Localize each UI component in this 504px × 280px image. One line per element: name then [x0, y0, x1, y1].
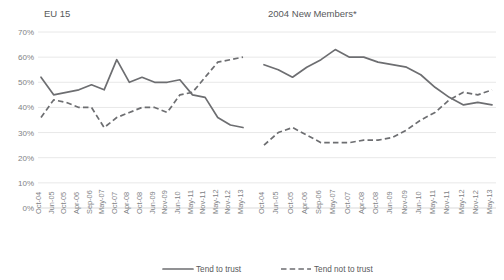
- legend-label: Tend not to trust: [314, 265, 373, 274]
- x-axis-tick-label: May-07: [328, 189, 337, 214]
- x-axis-tick-labels: Oct-04Jun-05Oct-05Apr-06Sep-06May-07Oct-…: [34, 189, 494, 214]
- y-axis-tick-label: 60%: [18, 53, 34, 62]
- x-axis-tick-label: Jun-10: [173, 191, 182, 214]
- chart-legend: Tend to trustTend not to trust: [163, 265, 373, 274]
- y-axis-tick-label: 20%: [18, 154, 34, 163]
- series-line: [264, 90, 492, 145]
- x-axis-tick-label: Nov-09: [160, 190, 169, 214]
- x-axis-tick-label: Oct-07: [343, 192, 352, 214]
- x-axis-tick-label: Jun-10: [414, 191, 423, 214]
- x-axis-tick-label: May-07: [97, 189, 106, 214]
- series-lines: [41, 50, 492, 146]
- trust-line-chart: 0%10%20%30%40%50%60%70% EU 152004 New Me…: [0, 0, 504, 280]
- x-axis-tick-label: Oct-05: [286, 192, 295, 214]
- x-axis-tick-label: Oct-04: [34, 192, 43, 214]
- x-axis-tick-label: Oct-04: [257, 192, 266, 214]
- x-axis-tick-label: Apr-06: [300, 192, 309, 214]
- x-axis-tick-label: May-11: [186, 190, 195, 214]
- x-axis-tick-label: Jun-09: [148, 191, 157, 214]
- x-axis-tick-label: Nov-11: [198, 191, 207, 214]
- series-line: [264, 50, 492, 105]
- y-axis-tick-label: 30%: [18, 129, 34, 138]
- x-axis-tick-label: Nov-12: [223, 190, 232, 214]
- gridlines: [38, 32, 496, 208]
- x-axis-tick-label: Nov-12: [471, 190, 480, 214]
- series-line: [41, 60, 243, 128]
- x-axis-tick-label: Apr-08: [122, 192, 131, 214]
- series-line: [41, 57, 243, 127]
- panel-titles: EU 152004 New Members*: [44, 8, 357, 19]
- x-axis-tick-label: Apr-08: [357, 192, 366, 214]
- x-axis-tick-label: Jun-09: [385, 191, 394, 214]
- x-axis-tick-label: May-12: [457, 189, 466, 214]
- x-axis-tick-label: May-13: [485, 189, 494, 214]
- y-axis-tick-label: 0%: [22, 204, 34, 213]
- x-axis-tick-label: Sep-06: [314, 190, 323, 214]
- x-axis-tick-label: Oct-07: [110, 192, 119, 214]
- x-axis-tick-label: Sep-06: [85, 190, 94, 214]
- x-axis-tick-label: Jun-05: [47, 191, 56, 214]
- x-axis-tick-label: Apr-06: [72, 192, 81, 214]
- legend-label: Tend to trust: [196, 265, 242, 274]
- x-axis-tick-label: Nov-09: [400, 190, 409, 214]
- y-axis-tick-label: 50%: [18, 78, 34, 87]
- x-axis-tick-label: May-13: [236, 189, 245, 214]
- y-axis-tick-label: 70%: [18, 28, 34, 37]
- x-axis-tick-label: May-11: [428, 190, 437, 214]
- panel-title: EU 15: [44, 8, 70, 19]
- x-axis-tick-label: May-12: [211, 189, 220, 214]
- y-axis-tick-label: 10%: [18, 179, 34, 188]
- x-axis-tick-label: Jun-05: [271, 191, 280, 214]
- y-axis-tick-labels: 0%10%20%30%40%50%60%70%: [18, 28, 34, 213]
- panel-title: 2004 New Members*: [268, 8, 357, 19]
- y-axis-tick-label: 40%: [18, 103, 34, 112]
- x-axis-tick-label: Oct-08: [371, 192, 380, 214]
- x-axis-tick-label: Oct-08: [135, 192, 144, 214]
- x-axis-tick-label: Nov-11: [442, 191, 451, 214]
- x-axis-tick-label: Oct-05: [59, 192, 68, 214]
